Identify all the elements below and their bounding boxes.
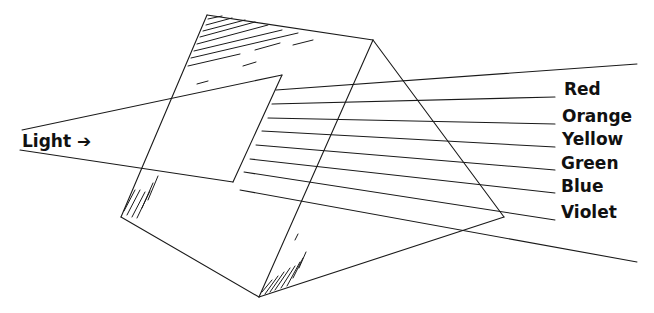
prism-outline bbox=[121, 15, 504, 297]
incoming-beam bbox=[20, 75, 282, 182]
prism-diagram: Light ➔ Red Orange Yellow Green Blue Vio… bbox=[0, 0, 654, 313]
spectrum-label-violet: Violet bbox=[561, 204, 617, 221]
light-label: Light ➔ bbox=[22, 133, 91, 150]
spectrum-label-red: Red bbox=[564, 81, 601, 98]
prism-drawing bbox=[0, 0, 654, 313]
spectrum-label-orange: Orange bbox=[562, 108, 632, 125]
spectrum-rays bbox=[244, 97, 555, 220]
spectrum-label-blue: Blue bbox=[561, 178, 603, 195]
hatching-top bbox=[188, 16, 313, 84]
spectrum-label-yellow: Yellow bbox=[562, 131, 623, 148]
hatching-bottom bbox=[262, 234, 306, 294]
spectrum-label-green: Green bbox=[561, 155, 619, 172]
